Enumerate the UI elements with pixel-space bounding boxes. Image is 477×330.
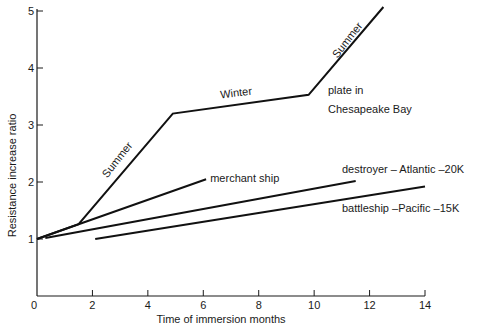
annotation-winter: Winter — [220, 85, 253, 101]
annotation-destroyer: destroyer – Atlantic –20K — [342, 163, 465, 175]
y-axis-label: Resistance increase ratio — [6, 114, 18, 238]
annotations: SummerWinterSummerplate inChesapeake Bay… — [99, 20, 464, 214]
annotation-plate2: Chesapeake Bay — [328, 103, 412, 115]
y-ticks: 12345 — [28, 5, 43, 245]
annotation-summer2: Summer — [330, 20, 365, 60]
series-line-plate-in-chesapeake-bay — [37, 7, 383, 239]
series-line-merchant-ship — [37, 179, 206, 239]
x-tick-label: 14 — [419, 299, 431, 311]
x-tick-label: 12 — [363, 299, 375, 311]
annotation-plate1: plate in — [328, 84, 363, 96]
x-tick-label: 2 — [89, 299, 95, 311]
x-tick-label: 8 — [256, 299, 262, 311]
chart: 02468101214 12345 Time of immersion mont… — [0, 0, 477, 330]
x-ticks: 02468101214 — [31, 290, 431, 311]
annotation-battleship: battleship –Pacific –15K — [342, 202, 460, 214]
x-tick-label: 10 — [308, 299, 320, 311]
x-tick-label: 6 — [200, 299, 206, 311]
y-tick-label: 4 — [28, 62, 34, 74]
x-tick-label: 4 — [145, 299, 151, 311]
axes: 02468101214 12345 — [28, 5, 431, 311]
x-tick-label: 0 — [31, 299, 37, 311]
y-tick-label: 5 — [28, 5, 34, 17]
annotation-summer1: Summer — [99, 139, 134, 179]
x-axis-label: Time of immersion months — [156, 313, 286, 325]
y-tick-label: 1 — [28, 233, 34, 245]
y-tick-label: 2 — [28, 176, 34, 188]
annotation-merchant: merchant ship — [210, 172, 279, 184]
y-tick-label: 3 — [28, 119, 34, 131]
